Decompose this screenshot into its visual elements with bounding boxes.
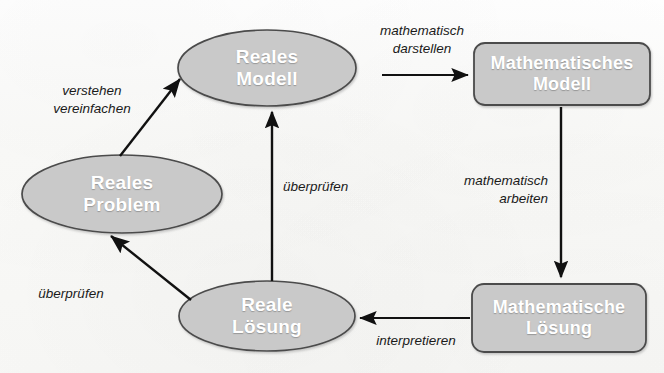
node-mathematische-loesung xyxy=(472,284,646,352)
edge-line2: vereinfachen xyxy=(24,100,160,118)
modelling-cycle-diagram: Reales Problem Reales Modell Mathematisc… xyxy=(0,0,664,373)
edge-label-interpretieren: interpretieren xyxy=(362,332,470,350)
node-reales-problem xyxy=(22,155,222,233)
edge-line1: verstehen xyxy=(62,83,121,98)
edge-label-ueberpruefen-mitte: überprüfen xyxy=(283,178,389,196)
edge-label-mathematisch-darstellen: mathematisch darstellen xyxy=(364,22,480,58)
edge-line1: interpretieren xyxy=(376,333,456,348)
node-mathematisches-modell xyxy=(474,43,650,105)
edge-line1: überprüfen xyxy=(38,286,103,301)
edge-line2: darstellen xyxy=(364,40,480,58)
edge-line1: mathematisch xyxy=(464,173,548,188)
edge-line1: mathematisch xyxy=(380,23,464,38)
edge-line1: überprüfen xyxy=(283,179,348,194)
node-reales-modell xyxy=(178,30,356,106)
edge-line2: arbeiten xyxy=(420,190,548,208)
edge-label-verstehen-vereinfachen: verstehen vereinfachen xyxy=(24,82,160,118)
node-reale-loesung xyxy=(179,281,355,351)
edge-label-mathematisch-arbeiten: mathematisch arbeiten xyxy=(420,172,548,208)
edge-label-ueberpruefen-links: überprüfen xyxy=(18,285,124,303)
